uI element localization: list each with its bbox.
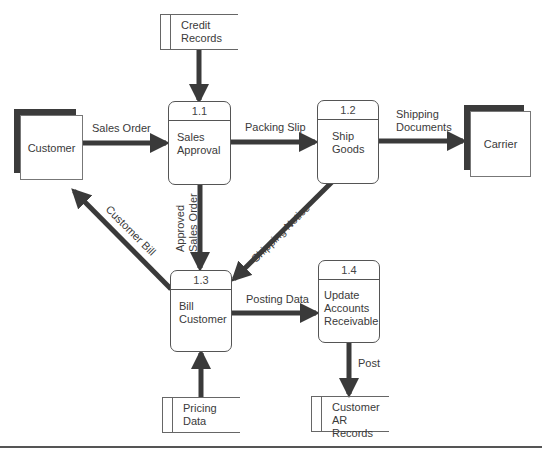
store-pricing-data: Pricing Data bbox=[162, 397, 240, 433]
flow-label-shipping-documents: Shipping Documents bbox=[396, 108, 452, 134]
process-1-4: 1.4 Update Accounts Receivable bbox=[318, 260, 380, 343]
store-divider bbox=[170, 15, 171, 49]
store-credit-records: Credit Records bbox=[160, 14, 238, 50]
process-id: 1.1 bbox=[169, 102, 230, 121]
process-1-2: 1.2 Ship Goods bbox=[317, 100, 379, 184]
process-id: 1.3 bbox=[171, 271, 231, 290]
store-customer-ar-records: Customer AR Records bbox=[311, 396, 389, 432]
entity-carrier: Carrier bbox=[470, 111, 531, 177]
bottom-rule bbox=[0, 446, 542, 448]
flow-label-packing-slip: Packing Slip bbox=[245, 121, 306, 134]
flow-label-approved-sales-order: Approved Sales Order bbox=[174, 193, 200, 252]
process-name: Sales Approval bbox=[169, 121, 230, 157]
process-1-3: 1.3 Bill Customer bbox=[170, 270, 232, 352]
store-label: Pricing Data bbox=[183, 402, 217, 428]
process-1-1: 1.1 Sales Approval bbox=[168, 101, 231, 185]
process-id: 1.4 bbox=[319, 261, 379, 280]
flow-label-sales-order: Sales Order bbox=[92, 122, 151, 135]
process-name: Update Accounts Receivable bbox=[319, 280, 379, 328]
process-name: Ship Goods bbox=[318, 120, 378, 156]
flow-arrows bbox=[0, 0, 542, 452]
store-label: Credit Records bbox=[181, 19, 222, 45]
flow-label-posting-data: Posting Data bbox=[246, 293, 309, 306]
store-divider bbox=[172, 398, 173, 432]
flow-label-post: Post bbox=[358, 357, 380, 370]
store-divider bbox=[321, 397, 322, 431]
entity-customer: Customer bbox=[20, 115, 83, 180]
arrow-customer-bill bbox=[74, 191, 171, 289]
process-name: Bill Customer bbox=[171, 290, 231, 326]
store-label: Customer AR Records bbox=[332, 401, 389, 440]
process-id: 1.2 bbox=[318, 101, 378, 120]
